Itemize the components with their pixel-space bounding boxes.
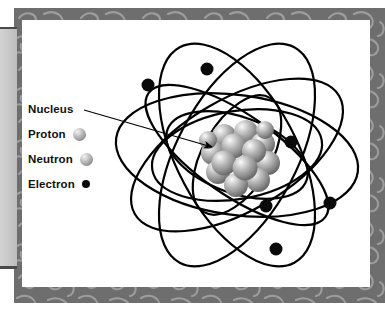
atom-diagram-figure: Nucleus Proton Neutron Electron [0,0,385,311]
left-tab-cap-bottom [0,266,17,269]
legend-label-proton: Proton [28,128,66,140]
legend-item-neutron: Neutron [28,148,124,170]
electron-dot [201,63,214,76]
legend: Nucleus Proton Neutron Electron [28,98,124,198]
legend-label-electron: Electron [28,178,75,190]
neutron-sphere-icon [80,153,93,166]
electron-dot [324,197,337,210]
electron-dot [142,79,155,92]
legend-item-proton: Proton [28,123,124,145]
legend-label-neutron: Neutron [28,153,73,165]
nucleon-sphere [212,151,237,176]
left-side-tab [0,29,17,267]
nucleon-sphere [256,121,274,139]
electron-dot [285,136,298,149]
electron-dot [260,200,273,213]
electron-dot-icon [82,180,90,188]
electron-dot [270,243,283,256]
proton-sphere-icon [73,128,86,141]
content-panel: Nucleus Proton Neutron Electron [22,20,370,287]
legend-item-electron: Electron [28,173,124,195]
legend-item-nucleus: Nucleus [28,98,124,120]
legend-label-nucleus: Nucleus [28,103,73,115]
nucleon-sphere [233,156,258,181]
